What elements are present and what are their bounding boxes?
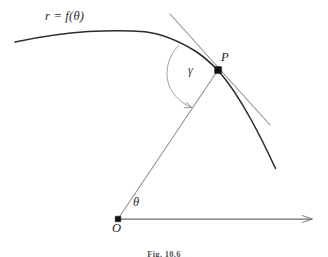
angle-theta-label: θ [133,196,139,209]
figure-drawing-canvas [0,0,328,257]
figure-caption: Fig. 10.6 [0,249,328,257]
polar-tangent-figure: r = f(θ) P γ θ O Fig. 10.6 [0,0,328,257]
polar-curve-path [15,31,276,169]
angle-gamma-label: γ [188,64,193,76]
point-marker-p [215,67,222,74]
origin-o-label: O [112,222,121,235]
point-p-label: P [221,51,229,64]
curve-equation-label: r = f(θ) [45,10,84,23]
